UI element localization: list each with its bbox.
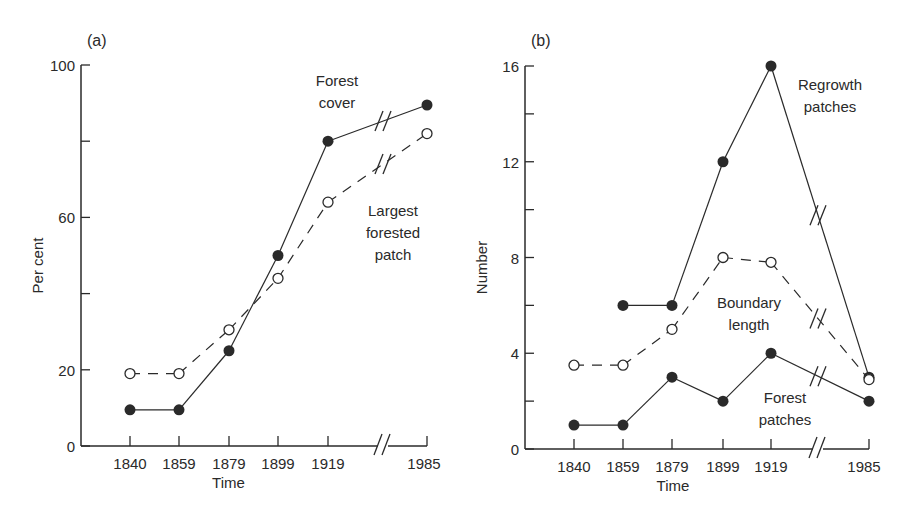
data-point-open — [718, 253, 728, 263]
data-point-open — [224, 325, 234, 335]
series-line-segment — [723, 258, 771, 263]
series-annotation: patches — [804, 98, 857, 115]
y-tick-label: 4 — [511, 345, 519, 362]
data-point-filled — [667, 372, 678, 383]
series-line-segment — [179, 351, 229, 410]
x-tick-label: 1899 — [706, 458, 739, 475]
y-tick-label: 16 — [502, 58, 519, 75]
series-break-mark — [383, 154, 391, 174]
x-tick-label: 1919 — [311, 455, 344, 472]
series-line-segment — [179, 330, 229, 374]
x-tick-label: 1985 — [407, 455, 440, 472]
series-annotation: forested — [366, 224, 420, 241]
series-break-mark — [818, 309, 826, 329]
series-line-segment — [623, 377, 672, 425]
series-boundary-length — [569, 253, 874, 385]
panel-b-patch-number-chart: (b)0481216Number184018591879189919191985… — [473, 32, 881, 494]
data-point-filled — [766, 61, 777, 72]
data-point-open — [667, 324, 677, 334]
series-annotation: Boundary — [717, 294, 782, 311]
panel-label: (a) — [87, 32, 107, 49]
x-tick-label: 1840 — [557, 458, 590, 475]
data-point-filled — [618, 300, 629, 311]
data-point-open — [323, 197, 333, 207]
panel-a-forest-cover-chart: (a)02060100Per cent184018591879189919191… — [29, 32, 441, 491]
data-point-filled — [125, 404, 136, 415]
data-point-filled — [224, 345, 235, 356]
data-point-open — [422, 129, 432, 139]
axis-break-mark — [382, 434, 390, 455]
data-point-open — [174, 369, 184, 379]
x-tick-label: 1840 — [113, 455, 146, 472]
series-annotation: Regrowth — [798, 76, 862, 93]
data-point-filled — [718, 156, 729, 167]
series-break-mark — [375, 154, 383, 174]
x-tick-label: 1985 — [847, 458, 880, 475]
data-point-filled — [618, 420, 629, 431]
y-tick-label: 0 — [67, 438, 75, 455]
series-line-segment — [771, 262, 869, 379]
series-break-mark — [810, 309, 818, 329]
data-point-filled — [569, 420, 580, 431]
data-point-open — [125, 369, 135, 379]
y-tick-label: 0 — [511, 441, 519, 458]
series-annotation: Largest — [368, 202, 419, 219]
axis-break-mark — [817, 437, 825, 458]
series-line-segment — [672, 162, 723, 306]
series-forest-patches — [569, 348, 875, 431]
series-break-mark — [810, 205, 818, 225]
axis-break-mark — [374, 434, 382, 455]
series-annotation: cover — [319, 94, 356, 111]
data-point-open — [766, 257, 776, 267]
series-annotation: length — [729, 316, 770, 333]
x-tick-label: 1919 — [754, 458, 787, 475]
series-annotation: patches — [759, 411, 812, 428]
series-annotation: Forest — [764, 389, 807, 406]
series-line-segment — [278, 141, 328, 255]
x-tick-label: 1879 — [655, 458, 688, 475]
data-point-filled — [174, 404, 185, 415]
y-axis-label: Per cent — [29, 237, 46, 294]
series-break-mark — [818, 205, 826, 225]
data-point-filled — [718, 396, 729, 407]
series-annotation: patch — [375, 246, 412, 263]
data-point-filled — [323, 136, 334, 147]
series-line-segment — [229, 256, 278, 351]
y-tick-label: 60 — [58, 209, 75, 226]
data-point-filled — [766, 348, 777, 359]
data-point-filled — [667, 300, 678, 311]
y-tick-label: 8 — [511, 250, 519, 267]
data-point-open — [273, 273, 283, 283]
x-axis-label: Time — [657, 477, 690, 494]
y-tick-label: 100 — [50, 57, 75, 74]
series-line-segment — [723, 66, 771, 162]
data-point-open — [864, 375, 874, 385]
figure-two-panel-line-charts: (a)02060100Per cent184018591879189919191… — [0, 0, 900, 514]
x-tick-label: 1859 — [606, 458, 639, 475]
y-tick-label: 12 — [502, 154, 519, 171]
data-point-open — [618, 360, 628, 370]
y-tick-label: 20 — [58, 362, 75, 379]
data-point-filled — [422, 100, 433, 111]
y-axis-label: Number — [473, 241, 490, 294]
series-line-segment — [672, 377, 723, 401]
x-tick-label: 1879 — [212, 455, 245, 472]
series-line-segment — [623, 329, 672, 365]
x-tick-label: 1859 — [162, 455, 195, 472]
data-point-filled — [864, 396, 875, 407]
axis-break-mark — [809, 437, 817, 458]
data-point-open — [569, 360, 579, 370]
series-annotation: Forest — [316, 72, 359, 89]
series-line-segment — [278, 202, 328, 278]
x-tick-label: 1899 — [261, 455, 294, 472]
series-line-segment — [672, 258, 723, 330]
data-point-filled — [273, 250, 284, 261]
panel-label: (b) — [531, 32, 551, 49]
x-axis-label: Time — [212, 474, 245, 491]
